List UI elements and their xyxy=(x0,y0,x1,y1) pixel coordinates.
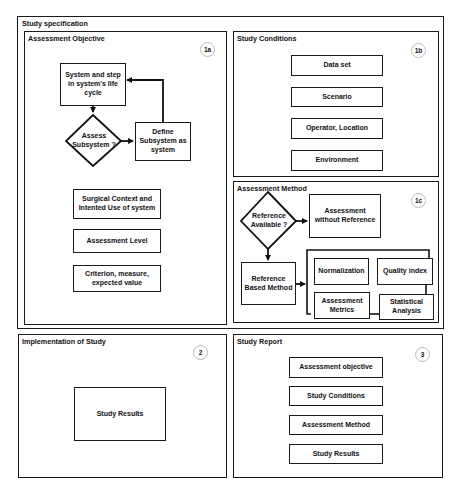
report-assessment-objective-box: Assessment objective xyxy=(289,357,383,378)
implementation-study-results-box: Study Results xyxy=(74,387,166,441)
study-conditions-title: Study Conditions xyxy=(237,34,297,43)
step-badge-1c: 1c xyxy=(411,193,426,208)
report-study-conditions-box: Study Conditions xyxy=(289,386,383,406)
define-subsystem-box: Define Subsystem as system xyxy=(135,122,191,161)
data-set-box: Data set xyxy=(291,55,383,76)
assessment-metrics-box: Assessment Metrics xyxy=(314,292,370,319)
study-specification-title: Study specification xyxy=(22,19,88,28)
criterion-box: Criterion, measure, expected value xyxy=(73,265,161,292)
implementation-title: Implementation of Study xyxy=(22,337,106,346)
step-badge-3: 3 xyxy=(415,347,430,362)
assessment-objective-title: Assessment Objective xyxy=(28,34,105,43)
step-badge-1b: 1b xyxy=(411,43,426,58)
assessment-without-reference-box: Assessment without Reference xyxy=(309,194,381,238)
report-assessment-method-box: Assessment Method xyxy=(289,415,383,435)
step-badge-2: 2 xyxy=(193,345,208,360)
assessment-level-box: Assessment Level xyxy=(73,229,161,253)
system-step-box: System and step in system's life cycle xyxy=(60,63,126,106)
reference-available-label: Reference Available ? xyxy=(248,208,290,234)
surgical-context-box: Surgical Context and Intented Use of sys… xyxy=(73,189,161,219)
step-badge-1a: 1a xyxy=(200,42,215,57)
quality-index-box: Quality index xyxy=(377,258,433,285)
statistical-analysis-box: Statistical Analysis xyxy=(379,294,434,320)
reference-based-method-box: Reference Based Method xyxy=(241,262,296,305)
assessment-method-title: Assessment Method xyxy=(237,184,307,193)
operator-location-box: Operator, Location xyxy=(291,118,383,139)
normalization-box: Normalization xyxy=(314,258,369,285)
study-report-title: Study Report xyxy=(237,337,282,346)
assess-subsystem-label: Assess Subsystem ? xyxy=(72,127,116,155)
environment-box: Environment xyxy=(291,150,383,171)
scenario-box: Scenario xyxy=(291,87,383,107)
report-study-results-box: Study Results xyxy=(289,444,383,464)
